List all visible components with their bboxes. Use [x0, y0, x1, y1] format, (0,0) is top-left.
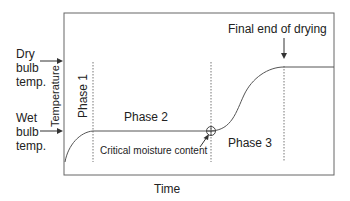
critical-moisture-label: Critical moisture content — [100, 144, 207, 158]
dry-bulb-label-line1: Dry — [16, 47, 35, 61]
x-axis-label: Time — [154, 182, 180, 196]
dry-bulb-label-line3: temp. — [16, 75, 46, 89]
wet-bulb-label-line2: bulb — [16, 125, 39, 139]
wet-bulb-label-line1: Wet — [16, 111, 37, 125]
phase2-label: Phase 2 — [124, 110, 168, 124]
phase1-label: Phase 1 — [76, 74, 90, 118]
dry-bulb-label-line2: bulb — [16, 61, 39, 75]
phase3-label: Phase 3 — [228, 136, 272, 150]
final-end-label: Final end of drying — [228, 22, 327, 36]
y-axis-label: Temperature — [49, 65, 61, 127]
wet-bulb-label-line3: temp. — [16, 139, 46, 153]
